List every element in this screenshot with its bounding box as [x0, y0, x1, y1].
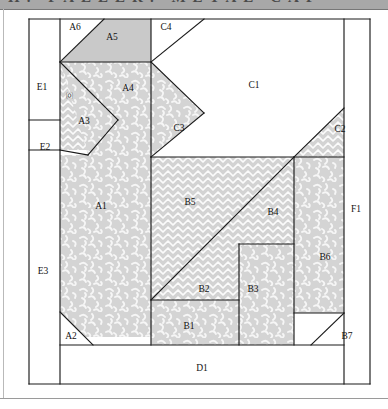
quilt-piece-b1 [151, 300, 239, 345]
piece-label-b6: B6 [319, 252, 330, 262]
piece-fill-layer [29, 19, 370, 384]
piece-label-b1: B1 [183, 321, 194, 331]
piece-label-c2: C2 [334, 124, 345, 134]
piece-label-a2: A2 [65, 331, 77, 341]
piece-label-a5: A5 [106, 32, 118, 42]
piece-label-b5: B5 [184, 197, 195, 207]
piece-label-e3: E3 [38, 266, 49, 276]
piece-label-b7: B7 [341, 331, 352, 341]
piece-label-b3: B3 [247, 284, 258, 294]
piece-label-a3: A3 [78, 116, 90, 126]
piece-label-b4: B4 [267, 207, 278, 217]
quilt-piece-a1 [60, 155, 151, 337]
piece-label-a6: A6 [69, 22, 81, 32]
seam-line-15 [60, 150, 88, 155]
screenshot-page: H. FALLER. METAL CAP [0, 0, 388, 409]
piece-label-a0: ⒪ [66, 91, 73, 100]
piece-label-a1: A1 [95, 201, 107, 211]
piece-label-d1: D1 [196, 363, 208, 373]
quilt-piece-b3 [239, 244, 294, 345]
quilt-piece-f1 [344, 19, 370, 384]
piece-label-c4: C4 [160, 22, 171, 32]
piece-label-e1: E1 [37, 82, 48, 92]
piece-label-a4: A4 [122, 83, 134, 93]
piece-label-c3: C3 [173, 123, 184, 133]
piece-label-e2: E2 [40, 142, 51, 152]
piece-label-f1: F1 [351, 204, 361, 214]
piece-label-b2: B2 [198, 284, 209, 294]
piece-label-c1: C1 [248, 80, 259, 90]
quilt-piece-b6 [294, 157, 344, 313]
quilt-block-diagram: A1A2A3A4A5A6⒪B1B2B3B4B5B6B7C1C2C3C4D1E1E… [0, 0, 388, 409]
quilt-piece-e1 [29, 19, 60, 120]
